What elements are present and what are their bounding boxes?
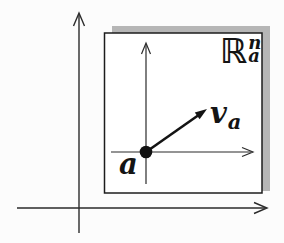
rn-script-stack: n a (248, 36, 261, 62)
rn-subscript: a (248, 49, 261, 62)
tangent-space-figure: a va ℝ n a (0, 0, 284, 243)
point-a-label: a (119, 150, 138, 179)
vector-subscript: a (228, 109, 242, 134)
vector-va-label: va (210, 99, 241, 132)
x-axis (17, 203, 267, 214)
space-rn-label: ℝ n a (220, 34, 261, 68)
blackboard-r-symbol: ℝ (220, 34, 247, 68)
point-a-dot (140, 146, 153, 159)
vector-symbol: v (210, 96, 227, 130)
y-axis (74, 13, 85, 233)
